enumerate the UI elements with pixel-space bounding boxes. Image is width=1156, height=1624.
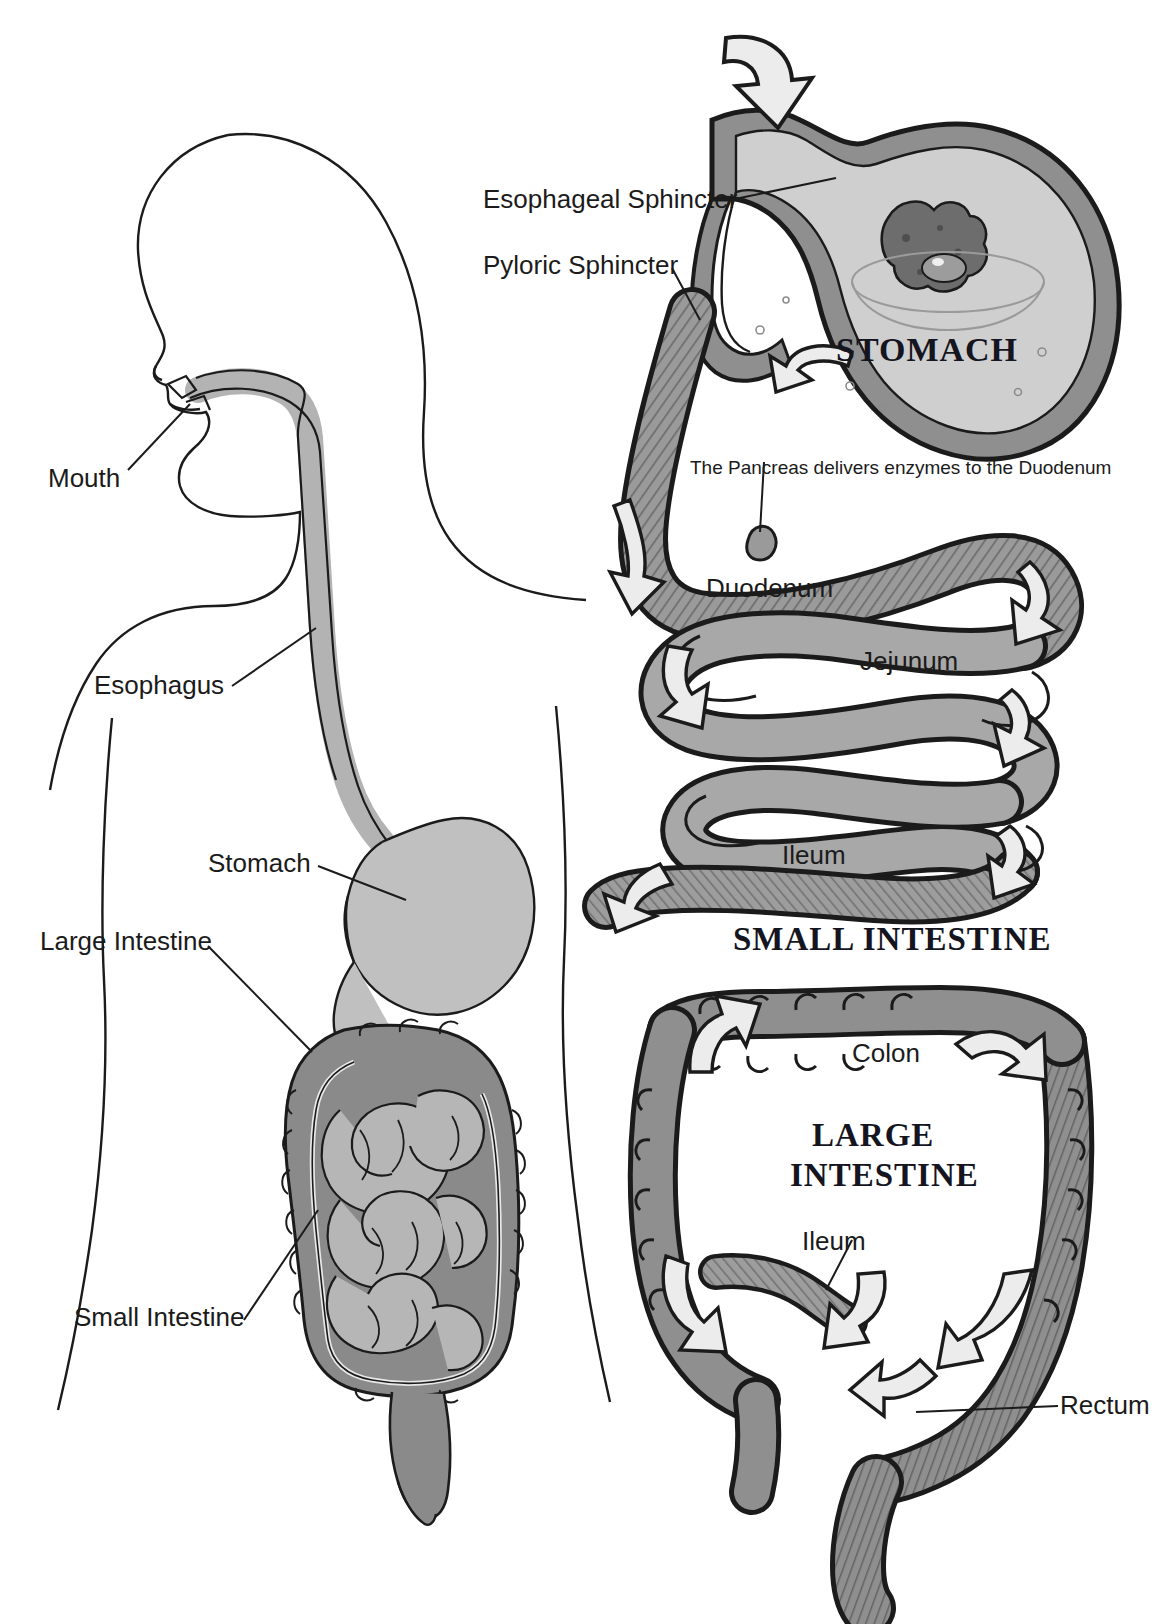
flow-arrow-duodenum-right xyxy=(1012,562,1060,644)
stomach-shape-body xyxy=(334,818,535,1066)
large-intestine-detail-illustration xyxy=(636,994,1084,1608)
heading-large-intestine-line2: INTESTINE xyxy=(790,1158,979,1193)
flow-arrow-ileum-right xyxy=(988,826,1034,898)
flow-arrow-ileum-exit xyxy=(604,864,672,932)
digestive-system-diagram: THE DIGESTIVE SYSTEM xyxy=(0,0,1156,1624)
label-duodenum: Duodenum xyxy=(706,575,833,601)
illustration-layer xyxy=(0,0,1156,1624)
label-pyloric-sphincter: Pyloric Sphincter xyxy=(483,252,678,278)
flow-arrow-colon-lower-right xyxy=(938,1270,1032,1368)
body-outline xyxy=(50,134,610,1410)
flow-arrow-jejunum-left xyxy=(660,646,708,728)
flow-arrow-rectum xyxy=(850,1360,936,1416)
label-esophagus: Esophagus xyxy=(94,672,224,698)
flow-arrow-colon-upper-left xyxy=(690,996,760,1072)
pancreas-duct xyxy=(747,526,776,560)
label-ileum-small: Ileum xyxy=(782,842,846,868)
label-large-intestine: Large Intestine xyxy=(40,928,212,954)
rectum-shape-body xyxy=(390,1392,450,1525)
large-intestine-shape-body xyxy=(282,1020,525,1407)
flow-arrow-colon-lower-left xyxy=(663,1256,726,1352)
stomach-detail-illustration xyxy=(692,110,1119,459)
label-rectum: Rectum xyxy=(1060,1392,1150,1418)
flow-arrow-colon-upper-right xyxy=(956,1032,1046,1080)
heading-small-intestine: SMALL INTESTINE xyxy=(733,922,1052,957)
flow-arrow-into-stomach xyxy=(724,37,812,128)
esophagus-shape xyxy=(190,370,392,848)
label-small-intestine: Small Intestine xyxy=(74,1304,245,1330)
flow-arrow-duodenum-left xyxy=(610,500,664,614)
label-colon: Colon xyxy=(852,1040,920,1066)
small-intestine-detail-illustration xyxy=(606,312,1059,906)
label-mouth: Mouth xyxy=(48,465,120,491)
flow-arrow-jejunum-right xyxy=(994,690,1044,766)
label-stomach: Stomach xyxy=(208,850,311,876)
mouth-opening xyxy=(168,376,210,410)
label-pancreas-note: The Pancreas delivers enzymes to the Duo… xyxy=(690,458,1111,477)
heading-large-intestine-line1: LARGE xyxy=(812,1118,934,1153)
label-jejunum: Jejunum xyxy=(860,648,958,674)
flow-arrow-ileocecal xyxy=(824,1272,885,1348)
label-ileum-large: Ileum xyxy=(802,1228,866,1254)
heading-stomach: STOMACH xyxy=(836,332,1018,368)
small-intestine-shape-body xyxy=(322,1090,487,1370)
label-esophageal-sphincter: Esophageal Sphincter xyxy=(483,186,737,212)
